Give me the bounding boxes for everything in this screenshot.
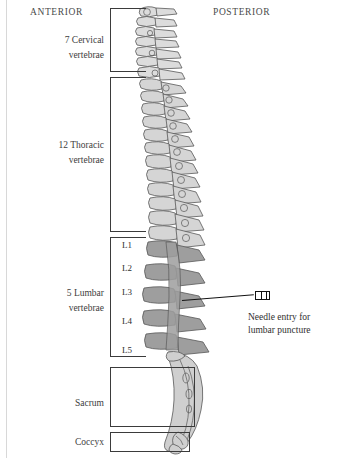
region-label-cervical-line1: 7 Cervical bbox=[65, 35, 104, 45]
spine-anatomy-figure: .bone { stroke:#585858; stroke-width:0.8… bbox=[0, 0, 347, 458]
needle-hub-icon bbox=[255, 291, 270, 300]
bracket-thoracic bbox=[110, 77, 146, 232]
region-label-coccyx-line1: Coccyx bbox=[75, 437, 104, 447]
bracket-cervical bbox=[110, 8, 146, 72]
region-label-cervical: 7 Cervical vertebrae bbox=[12, 33, 104, 63]
bracket-sacrum bbox=[110, 367, 195, 427]
region-label-thoracic: 12 Thoracic vertebrae bbox=[12, 138, 104, 168]
region-label-lumbar-line2: vertebrae bbox=[12, 301, 104, 316]
vertebra-label-l1: L1 bbox=[122, 240, 132, 250]
vertebra-label-l4: L4 bbox=[122, 316, 132, 326]
region-label-thoracic-line1: 12 Thoracic bbox=[59, 140, 104, 150]
region-label-lumbar: 5 Lumbar vertebrae bbox=[12, 286, 104, 316]
vertebra-label-l5: L5 bbox=[122, 345, 132, 355]
region-label-thoracic-line2: vertebrae bbox=[12, 153, 104, 168]
needle-entry-caption: Needle entry for lumbar puncture bbox=[248, 311, 311, 337]
orientation-label-anterior: ANTERIOR bbox=[30, 7, 83, 17]
region-label-lumbar-line1: 5 Lumbar bbox=[67, 288, 104, 298]
region-label-sacrum-line1: Sacrum bbox=[75, 398, 104, 408]
bracket-lumbar bbox=[110, 237, 146, 357]
needle-caption-line1: Needle entry for bbox=[248, 312, 310, 322]
region-label-cervical-line2: vertebrae bbox=[12, 48, 104, 63]
orientation-label-posterior: POSTERIOR bbox=[213, 7, 270, 17]
bracket-coccyx bbox=[110, 432, 190, 452]
region-label-sacrum: Sacrum bbox=[12, 396, 104, 411]
region-label-coccyx: Coccyx bbox=[12, 435, 104, 450]
needle-caption-line2: lumbar puncture bbox=[248, 324, 311, 337]
vertebra-label-l3: L3 bbox=[122, 287, 132, 297]
vertebra-label-l2: L2 bbox=[122, 263, 132, 273]
thoracic-vertebrae-group bbox=[140, 79, 206, 248]
